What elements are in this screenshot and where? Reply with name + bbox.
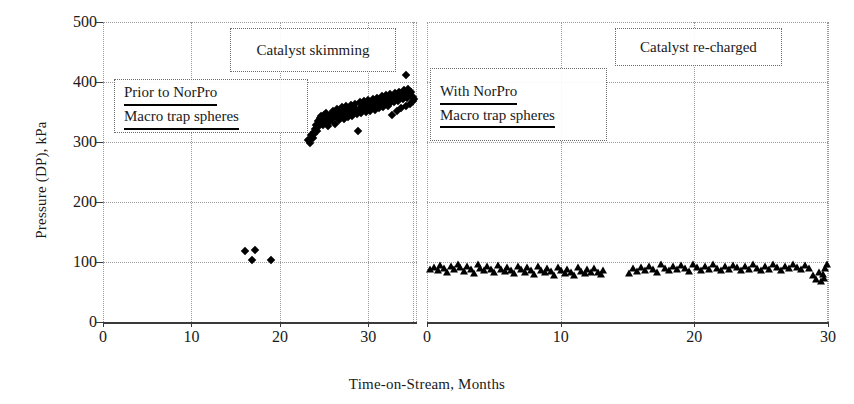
x-tick-mark <box>368 322 369 327</box>
y-tick-label: 500 <box>73 13 97 31</box>
annotation-prior-to-norpro: Prior to NorPro Macro trap spheres <box>114 79 308 133</box>
data-point-triangle <box>599 267 607 274</box>
gridline-vertical <box>416 22 417 322</box>
x-tick-mark <box>561 322 562 327</box>
gridline-horizontal <box>103 22 417 23</box>
x-axis-title: Time-on-Stream, Months <box>0 376 854 393</box>
y-tick-mark <box>96 262 103 263</box>
data-point-triangle <box>685 268 693 275</box>
gridline-horizontal <box>103 262 417 263</box>
x-tick-label: 10 <box>183 328 199 346</box>
y-tick-label: 300 <box>73 133 97 151</box>
annotation-catalyst-skimming: Catalyst skimming <box>230 28 396 72</box>
gridline-vertical <box>828 22 829 322</box>
x-tick-mark <box>427 322 428 327</box>
x-tick-label: 10 <box>553 328 569 346</box>
y-tick-mark <box>96 22 103 23</box>
y-tick-mark <box>96 202 103 203</box>
annotation-line-2: Macro trap spheres <box>124 106 298 130</box>
annotation-text: Catalyst re-charged <box>625 37 772 58</box>
gridline-horizontal <box>427 22 828 23</box>
data-point-triangle <box>653 268 661 275</box>
gridline-vertical <box>191 22 192 322</box>
x-tick-mark <box>280 322 281 327</box>
gridline-vertical <box>694 22 695 322</box>
annotation-with-norpro: With NorPro Macro trap spheres <box>430 68 607 141</box>
y-axis-title: Pressure (DP), kPa <box>33 30 50 330</box>
gridline-vertical <box>561 22 562 322</box>
x-tick-label: 0 <box>99 328 107 346</box>
x-tick-label: 20 <box>686 328 702 346</box>
annotation-text: Catalyst skimming <box>240 40 386 61</box>
left-x-axis-line <box>103 322 417 324</box>
right-x-axis-line <box>427 322 828 324</box>
gridline-horizontal <box>103 202 417 203</box>
y-tick-label: 100 <box>73 253 97 271</box>
annotation-line-1: Prior to NorPro <box>124 82 298 106</box>
x-tick-label: 30 <box>360 328 376 346</box>
left-panel: Catalyst skimming Prior to NorPro Macro … <box>103 22 417 322</box>
y-axis-tick-labels: 0100200300400500 <box>55 22 97 322</box>
y-tick-mark <box>96 82 103 83</box>
data-point-triangle <box>820 274 828 281</box>
x-tick-label: 0 <box>423 328 431 346</box>
y-tick-label: 200 <box>73 193 97 211</box>
data-point-triangle <box>823 261 831 268</box>
y-tick-label: 400 <box>73 73 97 91</box>
right-plot-background <box>427 22 828 322</box>
gridline-horizontal <box>427 142 828 143</box>
annotation-line-1: With NorPro <box>440 81 597 105</box>
x-tick-mark <box>103 322 104 327</box>
y-tick-mark <box>96 322 103 323</box>
x-tick-mark <box>191 322 192 327</box>
x-tick-label: 30 <box>820 328 836 346</box>
right-panel: With NorPro Macro trap spheres Catalyst … <box>427 22 828 322</box>
y-tick-mark <box>96 142 103 143</box>
gridline-vertical <box>427 22 428 322</box>
data-point-triangle <box>805 265 813 272</box>
gridline-vertical <box>413 22 414 322</box>
x-tick-label: 20 <box>272 328 288 346</box>
annotation-catalyst-re-charged: Catalyst re-charged <box>615 28 782 66</box>
x-tick-mark <box>694 322 695 327</box>
gridline-horizontal <box>427 202 828 203</box>
gridline-horizontal <box>103 142 417 143</box>
y-axis-title-wrapper: Pressure (DP), kPa <box>33 330 34 331</box>
chart-figure: Pressure (DP), kPa 0100200300400500 Cata… <box>0 0 854 404</box>
x-tick-mark <box>828 322 829 327</box>
annotation-line-2: Macro trap spheres <box>440 105 597 129</box>
gridline-vertical <box>103 22 104 322</box>
